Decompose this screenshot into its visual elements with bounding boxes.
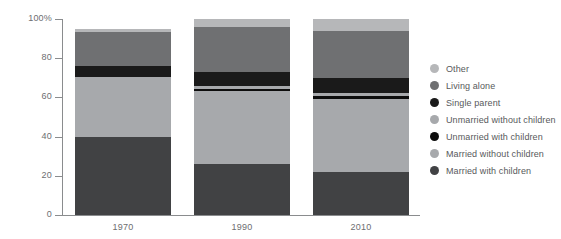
y-axis-tick-label: 20	[4, 171, 52, 180]
x-axis-tick-label: 1990	[194, 222, 290, 232]
legend-item: Unmarried without children	[430, 111, 561, 128]
chart-legend: OtherLiving aloneSingle parentUnmarried …	[430, 60, 561, 179]
bar-segment	[194, 72, 290, 86]
legend-swatch-icon	[430, 81, 439, 90]
bar-segment	[194, 89, 290, 91]
bar-segment	[194, 19, 290, 27]
y-axis-tick	[55, 58, 62, 59]
bar-segment	[75, 77, 171, 137]
y-axis-tick-label: 100%	[4, 14, 52, 23]
legend-swatch-icon	[430, 98, 439, 107]
bar-1970	[75, 19, 171, 215]
y-axis-tick	[55, 137, 62, 138]
plot-area	[63, 19, 420, 215]
bar-segment	[313, 19, 409, 31]
legend-swatch-icon	[430, 64, 439, 73]
bar-segment	[313, 96, 409, 99]
legend-item-label: Other	[446, 64, 469, 74]
legend-item-label: Unmarried with children	[446, 132, 543, 142]
y-axis-tick	[55, 215, 62, 216]
y-axis-tick	[55, 97, 62, 98]
x-axis-tick-label: 1970	[75, 222, 171, 232]
y-axis-tick	[55, 176, 62, 177]
legend-item-label: Living alone	[446, 81, 495, 91]
bar-segment	[313, 93, 409, 96]
bar-segment	[75, 29, 171, 32]
bar-segment	[313, 78, 409, 94]
legend-item: Married with children	[430, 162, 561, 179]
legend-swatch-icon	[430, 149, 439, 158]
y-axis-tick-label: 0	[4, 210, 52, 219]
legend-item-label: Married without children	[446, 149, 544, 159]
legend-item-label: Single parent	[446, 98, 500, 108]
bar-segment	[75, 66, 171, 77]
bar-segment	[194, 164, 290, 215]
legend-item-label: Married with children	[446, 166, 531, 176]
bar-segment	[194, 91, 290, 165]
legend-item-label: Unmarried without children	[446, 115, 556, 125]
legend-item: Other	[430, 60, 561, 77]
legend-item: Married without children	[430, 145, 561, 162]
bar-segment	[194, 27, 290, 72]
y-axis-tick-label: 80	[4, 53, 52, 62]
bar-segment	[313, 31, 409, 78]
legend-swatch-icon	[430, 166, 439, 175]
x-axis-line	[62, 215, 420, 216]
legend-item: Single parent	[430, 94, 561, 111]
x-axis-tick-label: 2010	[313, 222, 409, 232]
y-axis-tick	[55, 19, 62, 20]
y-axis-tick-label: 60	[4, 92, 52, 101]
bar-segment	[313, 172, 409, 215]
bar-segment	[194, 86, 290, 89]
bar-segment	[75, 32, 171, 66]
legend-swatch-icon	[430, 115, 439, 124]
stacked-bar-chart: 020406080100% OtherLiving aloneSingle pa…	[0, 0, 561, 239]
y-axis-labels: 020406080100%	[0, 0, 52, 239]
legend-item: Unmarried with children	[430, 128, 561, 145]
bar-1990	[194, 19, 290, 215]
y-axis-tick-label: 40	[4, 132, 52, 141]
legend-item: Living alone	[430, 77, 561, 94]
legend-swatch-icon	[430, 132, 439, 141]
bar-2010	[313, 19, 409, 215]
bar-segment	[75, 137, 171, 215]
bar-segment	[313, 99, 409, 172]
